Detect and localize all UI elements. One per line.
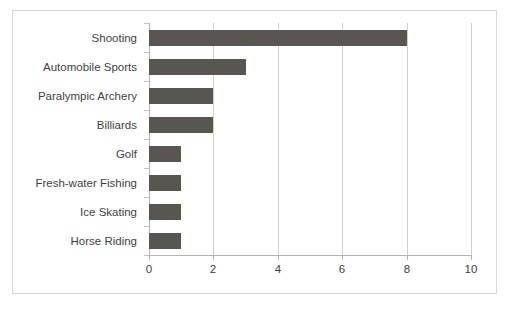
x-tick-label-10: 10 bbox=[465, 261, 478, 277]
bar bbox=[149, 204, 181, 220]
y-tick bbox=[144, 52, 149, 53]
y-tick bbox=[144, 168, 149, 169]
x-tick-label-4: 4 bbox=[275, 261, 281, 277]
y-tick bbox=[144, 197, 149, 198]
bar bbox=[149, 233, 181, 249]
category-label: Automobile Sports bbox=[43, 59, 137, 75]
gridline-8 bbox=[407, 23, 408, 255]
x-tick-label-6: 6 bbox=[339, 261, 345, 277]
category-label: Ice Skating bbox=[80, 204, 137, 220]
y-tick bbox=[144, 226, 149, 227]
bar bbox=[149, 30, 407, 46]
y-tick bbox=[144, 110, 149, 111]
gridline-2 bbox=[213, 23, 214, 255]
bar bbox=[149, 88, 213, 104]
y-tick bbox=[144, 23, 149, 24]
gridline-4 bbox=[278, 23, 279, 255]
category-label: Shooting bbox=[92, 30, 137, 46]
y-tick bbox=[144, 139, 149, 140]
gridline-0 bbox=[149, 23, 150, 255]
bar bbox=[149, 59, 246, 75]
y-tick bbox=[144, 81, 149, 82]
bar bbox=[149, 175, 181, 191]
gridline-10 bbox=[471, 23, 472, 255]
x-tick-10 bbox=[471, 255, 472, 260]
gridline-6 bbox=[342, 23, 343, 255]
chart-frame: ShootingAutomobile SportsParalympic Arch… bbox=[12, 10, 497, 294]
category-label: Horse Riding bbox=[71, 233, 137, 249]
x-axis-tick-labels: 0246810 bbox=[149, 261, 471, 281]
y-axis-category-labels: ShootingAutomobile SportsParalympic Arch… bbox=[21, 23, 143, 255]
x-tick-label-2: 2 bbox=[210, 261, 216, 277]
category-label: Paralympic Archery bbox=[38, 88, 137, 104]
bar bbox=[149, 146, 181, 162]
bar bbox=[149, 117, 213, 133]
category-label: Fresh-water Fishing bbox=[35, 175, 137, 191]
x-axis-line bbox=[149, 255, 471, 256]
plot-area bbox=[149, 23, 471, 255]
x-tick-label-8: 8 bbox=[404, 261, 410, 277]
category-label: Golf bbox=[116, 146, 137, 162]
category-label: Billiards bbox=[97, 117, 137, 133]
x-tick-label-0: 0 bbox=[146, 261, 152, 277]
